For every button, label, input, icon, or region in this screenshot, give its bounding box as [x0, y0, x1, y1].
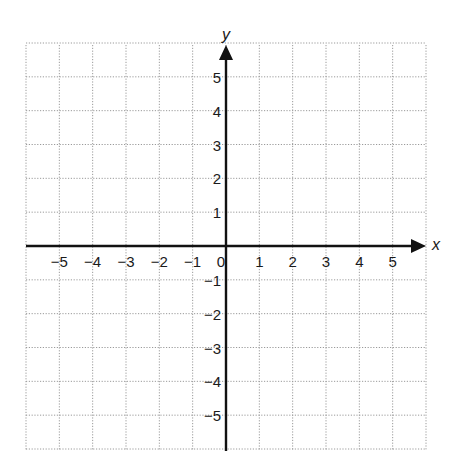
x-tick-label: 0	[217, 253, 225, 270]
x-axis-arrow-icon	[411, 239, 426, 253]
x-tick-label: −4	[84, 253, 101, 270]
x-tick-label: 1	[255, 253, 263, 270]
y-axis-label: y	[221, 26, 231, 43]
y-tick-label: −4	[204, 373, 221, 390]
x-tick-label: 2	[288, 253, 296, 270]
x-tick-label: 5	[388, 253, 396, 270]
y-tick-label: 4	[213, 103, 221, 120]
y-tick-label: −5	[204, 407, 221, 424]
y-tick-label: −2	[204, 306, 221, 323]
x-tick-label: 3	[322, 253, 330, 270]
x-tick-label: −2	[151, 253, 168, 270]
y-axis-arrow-icon	[219, 45, 233, 60]
x-tick-label: −1	[184, 253, 201, 270]
x-tick-label: −5	[51, 253, 68, 270]
x-tick-label: 4	[355, 253, 363, 270]
axes	[26, 45, 426, 451]
y-tick-label: 1	[213, 204, 221, 221]
y-tick-label: 2	[213, 170, 221, 187]
y-tick-label: −3	[204, 340, 221, 357]
coordinate-plane: −5−4−3−2−1012345−5−4−3−2−112345 x y	[0, 0, 456, 471]
x-axis-label: x	[431, 236, 441, 253]
y-tick-label: 5	[213, 69, 221, 86]
y-tick-label: 3	[213, 137, 221, 154]
x-tick-label: −3	[117, 253, 134, 270]
y-tick-label: −1	[204, 272, 221, 289]
